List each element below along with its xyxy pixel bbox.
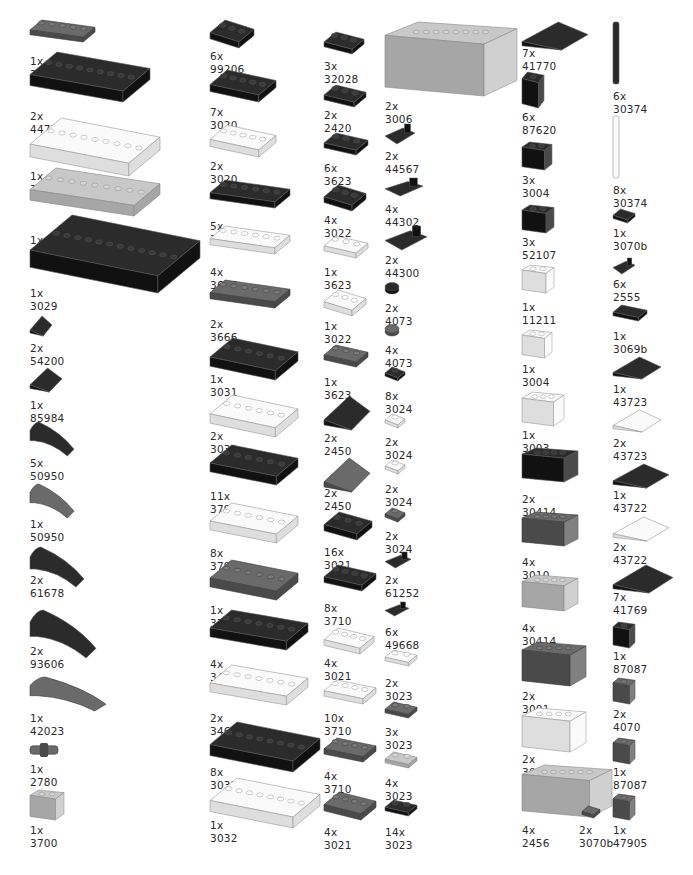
part-quantity: 1x bbox=[324, 376, 352, 389]
part-label: 7x41769 bbox=[613, 591, 647, 617]
part-number: 50950 bbox=[30, 531, 64, 544]
part-quantity: 1x bbox=[613, 489, 647, 502]
part-quantity: 2x bbox=[324, 487, 352, 500]
brick-tile-icon bbox=[613, 209, 635, 223]
part-quantity: 2x bbox=[613, 541, 647, 554]
part-number: 44567 bbox=[385, 163, 419, 176]
part-quantity: 1x bbox=[210, 373, 238, 386]
part-number: 61252 bbox=[385, 587, 419, 600]
brick-clip-icon bbox=[385, 226, 427, 250]
brick-clip-icon bbox=[385, 178, 423, 196]
brick-wedge-icon bbox=[613, 565, 673, 593]
part-quantity: 2x bbox=[30, 645, 64, 658]
part-quantity: 4x bbox=[385, 203, 419, 216]
brick-clip-icon bbox=[385, 602, 409, 616]
part-label: 5x50950 bbox=[30, 457, 64, 483]
part-number: 11211 bbox=[522, 314, 556, 327]
part-label: 1x42023 bbox=[30, 712, 64, 738]
brick-plate-icon bbox=[210, 180, 290, 208]
brick-plate-icon bbox=[385, 752, 417, 768]
part-quantity: 4x bbox=[522, 824, 550, 837]
part-quantity: 3x bbox=[324, 60, 358, 73]
part-number: 87087 bbox=[613, 779, 647, 792]
brick-plate-icon bbox=[324, 345, 368, 367]
brick-wedge-icon bbox=[324, 396, 370, 430]
part-label: 1x3032 bbox=[210, 819, 238, 845]
part-quantity: 10x bbox=[324, 712, 352, 725]
brick-brick-icon bbox=[522, 330, 552, 358]
part-quantity: 2x bbox=[385, 677, 413, 690]
brick-plate-icon bbox=[210, 445, 298, 485]
part-quantity: 4x bbox=[324, 770, 352, 783]
part-number: 87620 bbox=[522, 124, 556, 137]
part-quantity: 2x bbox=[324, 109, 352, 122]
part-label: 2x44567 bbox=[385, 150, 419, 176]
brick-clip-icon bbox=[385, 124, 415, 144]
brick-brick-icon bbox=[522, 575, 578, 611]
part-label: 6x30374 bbox=[613, 90, 647, 116]
brick-plate-icon bbox=[324, 512, 372, 540]
part-label: 1x87087 bbox=[613, 650, 647, 676]
part-quantity: 2x bbox=[210, 160, 238, 173]
part-number: 3004 bbox=[522, 187, 550, 200]
brick-slope-icon bbox=[30, 316, 52, 336]
part-number: 87087 bbox=[613, 663, 647, 676]
part-quantity: 2x bbox=[324, 432, 352, 445]
part-quantity: 2x bbox=[210, 318, 238, 331]
part-label: 4x3021 bbox=[324, 826, 352, 852]
part-label: 1x3069b bbox=[613, 330, 647, 356]
brick-plate-icon bbox=[385, 460, 405, 474]
part-label: 2x43723 bbox=[613, 437, 647, 463]
part-quantity: 1x bbox=[210, 819, 238, 832]
part-quantity: 1x bbox=[30, 763, 58, 776]
brick-pin-icon bbox=[30, 743, 58, 757]
part-number: 30374 bbox=[613, 103, 647, 116]
part-quantity: 16x bbox=[324, 546, 352, 559]
part-quantity: 2x bbox=[613, 437, 647, 450]
brick-plate-icon bbox=[210, 125, 276, 157]
part-number: 3710 bbox=[324, 725, 352, 738]
part-label: 1x2780 bbox=[30, 763, 58, 789]
brick-wedge-icon bbox=[613, 517, 669, 541]
part-label: 2x2450 bbox=[324, 487, 352, 513]
part-number: 3029 bbox=[30, 300, 58, 313]
part-quantity: 6x bbox=[522, 111, 556, 124]
brick-wedge-icon bbox=[613, 464, 669, 488]
part-quantity: 4x bbox=[522, 622, 556, 635]
part-quantity: 3x bbox=[385, 726, 413, 739]
part-number: 2555 bbox=[613, 291, 641, 304]
part-quantity: 2x bbox=[30, 574, 64, 587]
part-label: 2x54200 bbox=[30, 342, 64, 368]
part-number: 52107 bbox=[522, 249, 556, 262]
part-number: 44300 bbox=[385, 267, 419, 280]
part-label: 6x2555 bbox=[613, 278, 641, 304]
brick-brick-icon bbox=[522, 642, 586, 686]
part-number: 93606 bbox=[30, 658, 64, 671]
part-quantity: 2x bbox=[385, 436, 413, 449]
part-label: 10x3710 bbox=[324, 712, 352, 738]
brick-wedge-icon bbox=[522, 22, 588, 50]
brick-brick-icon bbox=[30, 790, 64, 820]
brick-brick-icon bbox=[613, 678, 635, 704]
part-label: 1x50950 bbox=[30, 518, 64, 544]
brick-brick-icon bbox=[522, 142, 552, 170]
part-quantity: 4x bbox=[385, 344, 413, 357]
part-quantity: 2x bbox=[385, 150, 419, 163]
part-label: 1x3623 bbox=[324, 266, 352, 292]
part-label: 1x43723 bbox=[613, 383, 647, 409]
brick-plate-icon bbox=[324, 133, 368, 155]
brick-plate-icon bbox=[324, 32, 364, 54]
part-number: 54200 bbox=[30, 355, 64, 368]
brick-plate-icon bbox=[30, 20, 95, 42]
brick-brick-icon bbox=[522, 708, 586, 752]
part-label: 1x3029 bbox=[30, 287, 58, 313]
part-quantity: 11x bbox=[210, 490, 238, 503]
part-label: 1x3070b bbox=[613, 227, 647, 253]
part-quantity: 6x bbox=[385, 626, 419, 639]
part-number: 3032 bbox=[210, 832, 238, 845]
part-quantity: 2x bbox=[385, 530, 413, 543]
part-label: 2x3024 bbox=[385, 483, 413, 509]
part-quantity: 1x bbox=[613, 766, 647, 779]
part-quantity: 1x bbox=[30, 712, 64, 725]
part-quantity: 2x bbox=[522, 690, 550, 703]
